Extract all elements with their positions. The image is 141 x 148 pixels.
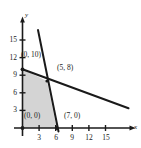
- vertex-7-0: [55, 126, 59, 130]
- y-tick-label-9: 9: [8, 71, 17, 79]
- x-tick-label-9: 9: [70, 134, 74, 142]
- x-tick-label-15: 15: [102, 134, 110, 142]
- vertex-0-0: [21, 126, 25, 130]
- y-axis-label: y: [25, 12, 28, 19]
- annotation-point-0-10: (0, 10): [21, 51, 41, 59]
- y-tick-label-12: 12: [5, 54, 17, 62]
- annotation-point-7-0: (7, 0): [64, 112, 80, 120]
- linear-programming-feasible-region-chart: x y 3 6 9 12 15 3 6 9 12 15 (0, 10) (5, …: [0, 0, 141, 148]
- annotation-point-0-0: (0, 0): [24, 112, 40, 120]
- annotation-point-5-8: (5, 8): [57, 64, 73, 72]
- y-tick-label-6: 6: [8, 89, 17, 97]
- x-tick-label-12: 12: [85, 134, 93, 142]
- x-tick-label-3: 3: [37, 134, 41, 142]
- y-tick-label-15: 15: [5, 36, 17, 44]
- x-tick-label-6: 6: [54, 134, 58, 142]
- y-tick-label-3: 3: [8, 106, 17, 114]
- x-axis-label: x: [134, 124, 137, 131]
- vertex-0-10: [21, 67, 25, 71]
- chart-canvas: [0, 0, 141, 148]
- vertex-5-8: [45, 79, 48, 82]
